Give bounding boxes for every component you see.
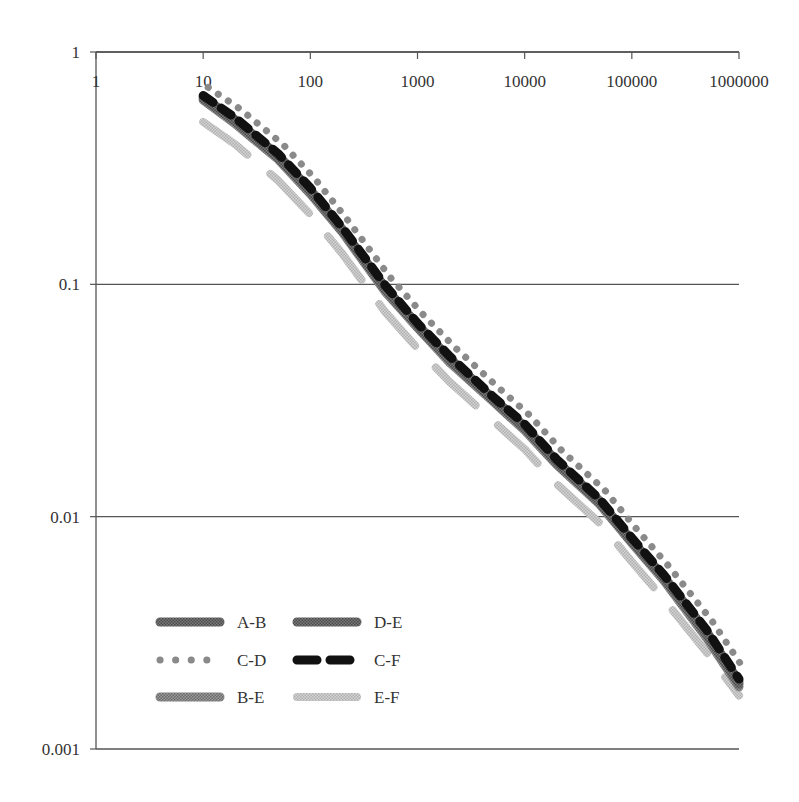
axes <box>90 52 739 749</box>
x-tick-label: 1000000 <box>709 72 769 91</box>
x-tick-label: 10000 <box>503 72 546 91</box>
legend-item-d-e: D-E <box>297 613 402 632</box>
x-tick-label: 1000 <box>401 72 435 91</box>
legend-label: E-F <box>374 688 400 707</box>
legend-item-c-f: C-F <box>297 651 400 670</box>
legend-label: A-B <box>237 613 266 632</box>
y-tick-label: 0.001 <box>42 740 80 759</box>
y-tick-label: 1 <box>72 43 81 62</box>
x-tick-label: 100000 <box>606 72 657 91</box>
legend-label: B-E <box>237 688 264 707</box>
legend-item-b-e: B-E <box>160 688 264 707</box>
y-axis-tick-labels: 10.10.010.001 <box>42 43 80 759</box>
legend-label: D-E <box>374 613 402 632</box>
y-tick-label: 0.01 <box>50 508 80 527</box>
x-axis-tick-labels: 1101001000100001000001000000 <box>92 72 769 91</box>
log-log-chart: 1101001000100001000001000000 10.10.010.0… <box>0 0 799 802</box>
x-tick-label: 100 <box>298 72 324 91</box>
legend-label: C-D <box>237 651 266 670</box>
x-tick-label: 1 <box>92 72 101 91</box>
legend-item-c-d: C-D <box>160 651 266 670</box>
series-line-e-f <box>203 122 739 696</box>
legend-label: C-F <box>374 651 400 670</box>
y-tick-label: 0.1 <box>59 275 80 294</box>
legend: A-BD-EC-DC-FB-EE-F <box>160 613 402 707</box>
data-series <box>203 87 744 695</box>
legend-item-a-b: A-B <box>160 613 266 632</box>
horizontal-gridlines <box>96 52 739 749</box>
legend-item-e-f: E-F <box>297 688 400 707</box>
